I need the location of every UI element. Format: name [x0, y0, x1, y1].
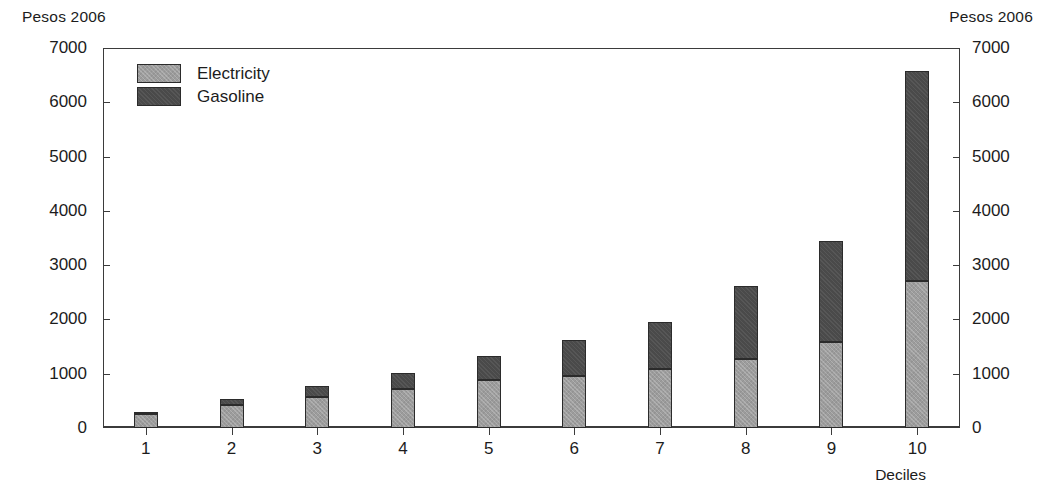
bar-segment-electricity	[391, 389, 415, 428]
x-axis-tick-mark	[917, 428, 918, 435]
legend-item: Gasoline	[137, 85, 270, 108]
bar-group	[819, 48, 843, 428]
y-axis-tick-label-left: 2000	[49, 310, 87, 327]
y-axis-tick-label-right: 3000	[972, 256, 1010, 273]
bar-group	[905, 48, 929, 428]
y-axis-tick-mark-left	[103, 102, 110, 103]
x-axis-tick-label: 10	[887, 440, 947, 457]
x-axis-tick-label: 8	[716, 440, 776, 457]
bar-group	[648, 48, 672, 428]
right-axis-unit-label: Pesos 2006	[949, 8, 1033, 26]
legend-item: Electricity	[137, 62, 270, 85]
y-axis-tick-label-right: 0	[972, 419, 981, 436]
bar-segment-gasoline	[648, 322, 672, 369]
y-axis-tick-label-left: 4000	[49, 202, 87, 219]
bar-group	[562, 48, 586, 428]
bar-segment-gasoline	[734, 286, 758, 358]
y-axis-tick-mark-right	[953, 157, 960, 158]
bar-segment-gasoline	[562, 340, 586, 376]
x-axis-tick-label: 6	[544, 440, 604, 457]
y-axis-tick-label-left: 5000	[49, 148, 87, 165]
bar-segment-electricity	[905, 281, 929, 428]
legend-swatch-electricity	[137, 64, 181, 83]
y-axis-tick-label-left: 6000	[49, 93, 87, 110]
bar-segment-gasoline	[819, 241, 843, 343]
y-axis-tick-mark-right	[953, 319, 960, 320]
bar-group	[305, 48, 329, 428]
x-axis-tick-mark	[317, 428, 318, 435]
chart-figure: Pesos 2006 Pesos 2006 001000100020002000…	[0, 0, 1049, 502]
y-axis-tick-label-left: 1000	[49, 365, 87, 382]
y-axis-tick-mark-left	[103, 211, 110, 212]
y-axis-tick-mark-right	[953, 374, 960, 375]
bar-segment-electricity	[477, 380, 501, 428]
x-axis-tick-mark	[146, 428, 147, 435]
bar-segment-electricity	[562, 376, 586, 428]
y-axis-tick-mark-left	[103, 374, 110, 375]
y-axis-tick-mark-right	[953, 211, 960, 212]
x-axis-tick-label: 4	[373, 440, 433, 457]
y-axis-tick-label-left: 0	[78, 419, 87, 436]
bar-segment-electricity	[305, 397, 329, 428]
x-axis-tick-label: 1	[116, 440, 176, 457]
bar-segment-gasoline	[305, 386, 329, 396]
x-axis-tick-mark	[489, 428, 490, 435]
y-axis-tick-label-right: 1000	[972, 365, 1010, 382]
legend-label: Electricity	[197, 65, 270, 82]
bar-group	[391, 48, 415, 428]
left-axis-unit-label: Pesos 2006	[22, 8, 106, 26]
bar-segment-gasoline	[134, 412, 158, 415]
y-axis-tick-mark-left	[103, 319, 110, 320]
x-axis-tick-label: 2	[202, 440, 262, 457]
x-axis-tick-label: 3	[287, 440, 347, 457]
x-axis-tick-mark	[403, 428, 404, 435]
bar-segment-gasoline	[391, 373, 415, 389]
y-axis-tick-label-right: 5000	[972, 148, 1010, 165]
x-axis-tick-mark	[574, 428, 575, 435]
bar-segment-electricity	[134, 414, 158, 428]
x-axis-tick-label: 7	[630, 440, 690, 457]
bar-segment-gasoline	[220, 399, 244, 405]
y-axis-tick-label-left: 3000	[49, 256, 87, 273]
x-axis-tick-mark	[746, 428, 747, 435]
bar-segment-electricity	[734, 359, 758, 428]
bar-segment-electricity	[648, 369, 672, 428]
y-axis-tick-mark-left	[103, 265, 110, 266]
y-axis-tick-mark-left	[103, 157, 110, 158]
y-axis-tick-mark-right	[953, 265, 960, 266]
x-axis-title: Deciles	[875, 466, 926, 484]
y-axis-tick-label-right: 6000	[972, 93, 1010, 110]
bar-segment-electricity	[819, 342, 843, 428]
legend-label: Gasoline	[197, 88, 264, 105]
bar-segment-gasoline	[905, 71, 929, 281]
y-axis-tick-label-right: 4000	[972, 202, 1010, 219]
y-axis-tick-label-right: 7000	[972, 39, 1010, 56]
chart-legend: ElectricityGasoline	[137, 62, 270, 108]
x-axis-tick-label: 5	[459, 440, 519, 457]
x-axis-tick-mark	[831, 428, 832, 435]
bar-group	[734, 48, 758, 428]
legend-swatch-gasoline	[137, 87, 181, 106]
y-axis-tick-label-left: 7000	[49, 39, 87, 56]
x-axis-tick-label: 9	[801, 440, 861, 457]
bar-segment-gasoline	[477, 356, 501, 380]
bar-group	[477, 48, 501, 428]
y-axis-tick-mark-right	[953, 102, 960, 103]
x-axis-tick-mark	[660, 428, 661, 435]
bar-segment-electricity	[220, 405, 244, 428]
x-axis-tick-mark	[232, 428, 233, 435]
y-axis-tick-label-right: 2000	[972, 310, 1010, 327]
